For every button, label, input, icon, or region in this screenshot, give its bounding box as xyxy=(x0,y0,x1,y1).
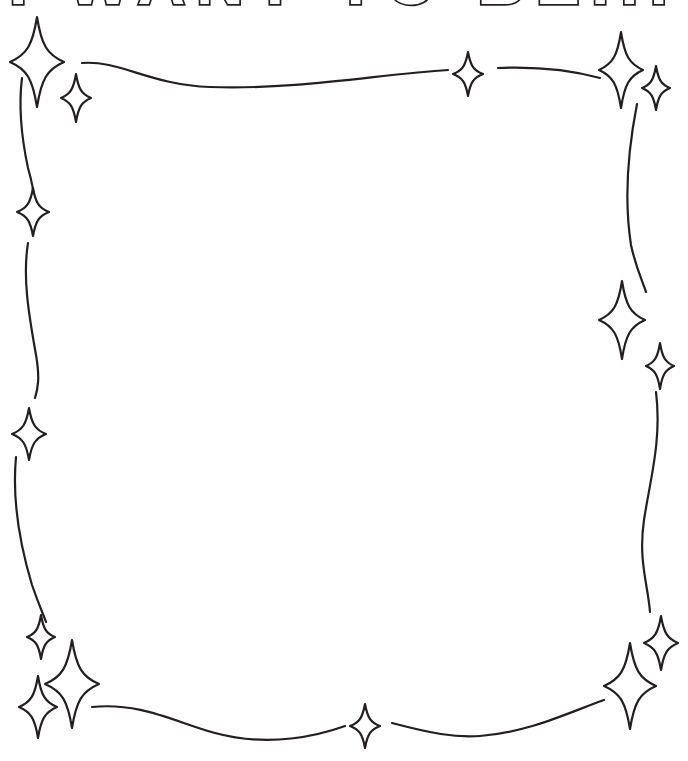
sparkle-right-small xyxy=(646,343,674,389)
sparkle-top-left-large xyxy=(10,17,64,107)
border-left-lower xyxy=(15,457,46,622)
border-bottom-right xyxy=(392,700,604,736)
border-right-mid xyxy=(642,392,658,612)
sparkle-bottom-left-small xyxy=(27,615,55,659)
sparkle-left-upper xyxy=(17,188,49,236)
vision-board-poster: I WANT TO BE... xyxy=(0,0,688,761)
border-bottom-left xyxy=(92,706,345,740)
sparkle-top-center xyxy=(453,52,483,96)
border-top xyxy=(82,63,448,88)
sparkle-bottom-right-medium xyxy=(644,616,678,670)
canvas-area[interactable] xyxy=(60,100,626,690)
sparkle-bottom-center xyxy=(350,704,380,748)
sparkle-left-lower xyxy=(12,408,46,460)
border-top-right xyxy=(498,68,600,78)
border-left-upper xyxy=(20,78,34,200)
sparkle-top-right-small xyxy=(642,66,670,110)
sparkle-top-right-large xyxy=(599,32,643,108)
border-left-mid xyxy=(26,243,38,398)
border-right-upper xyxy=(627,104,646,292)
